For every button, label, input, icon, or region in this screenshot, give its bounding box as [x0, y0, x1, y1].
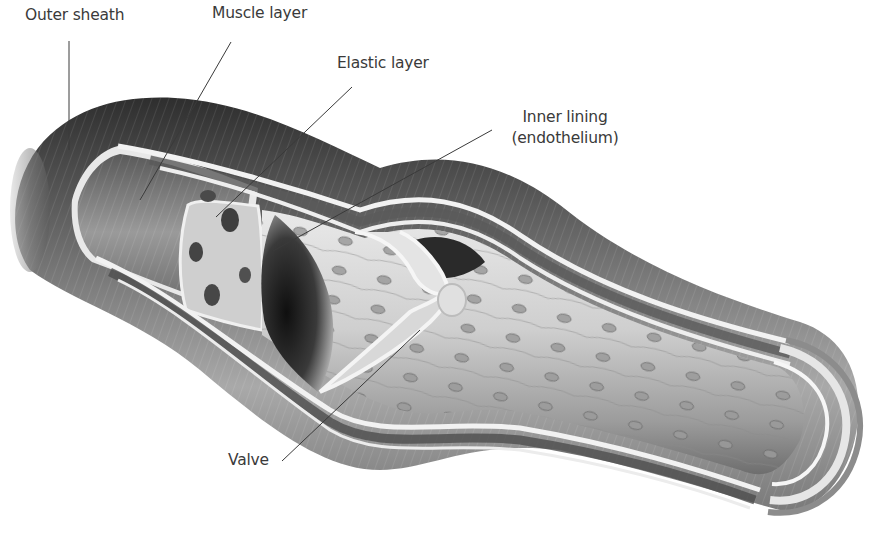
elastic-layer-shape — [180, 190, 263, 330]
label-inner-lining-line1: Inner lining — [500, 107, 630, 128]
label-outer-sheath: Outer sheath — [25, 5, 124, 26]
label-elastic-layer: Elastic layer — [337, 53, 429, 74]
label-inner-lining: Inner lining (endothelium) — [500, 107, 630, 149]
label-valve: Valve — [228, 450, 269, 471]
vein-diagram: Outer sheath Muscle layer Elastic layer … — [0, 0, 873, 541]
label-muscle-layer: Muscle layer — [212, 3, 307, 24]
vein-illustration — [0, 0, 873, 541]
label-inner-lining-line2: (endothelium) — [500, 128, 630, 149]
